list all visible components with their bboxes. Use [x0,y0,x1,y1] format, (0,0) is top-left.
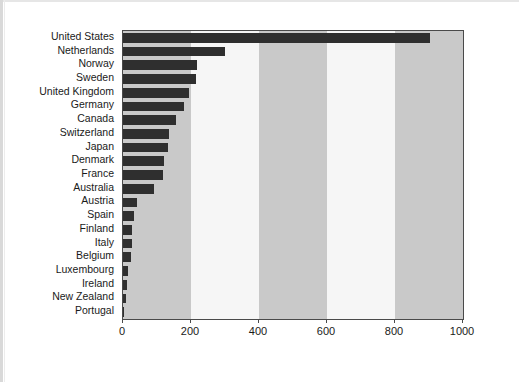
bar [123,280,127,290]
bar-row [123,266,463,276]
bar-row [123,239,463,249]
category-label: New Zealand [52,291,114,302]
x-tick-label: 400 [249,325,267,337]
category-label: Finland [80,223,114,234]
bar-row [123,129,463,139]
plot-area [122,30,464,320]
category-label: Italy [95,237,114,248]
category-label: Belgium [76,250,114,261]
x-tick-mark [462,319,463,323]
category-label: Canada [77,113,114,124]
bar-row [123,143,463,153]
bar [123,88,189,98]
category-label: Portugal [75,305,114,316]
category-label: Germany [71,99,114,110]
bar [123,294,126,304]
bar [123,143,168,153]
bar-row [123,156,463,166]
bar-row [123,60,463,70]
category-label: Japan [85,141,114,152]
bar [123,102,184,112]
category-label: France [81,168,114,179]
x-tick-mark [326,319,327,323]
category-label: Sweden [76,72,114,83]
category-label: Spain [87,209,114,220]
bar-row [123,184,463,194]
x-tick-mark [258,319,259,323]
bar [123,33,430,43]
bar [123,266,128,276]
category-label: Australia [73,182,114,193]
category-label: Netherlands [57,45,114,56]
bar-series [123,31,463,319]
bar [123,239,132,249]
bar-row [123,102,463,112]
x-tick-label: 1000 [450,325,474,337]
bar-row [123,280,463,290]
category-label: United States [51,31,114,42]
category-label: Denmark [71,154,114,165]
bar [123,47,225,57]
bar [123,74,196,84]
bar [123,170,163,180]
x-tick-mark [122,319,123,323]
bar-row [123,225,463,235]
x-tick-label: 200 [181,325,199,337]
bar-chart-figure: United StatesNetherlandsNorwaySwedenUnit… [0,0,519,382]
category-label: Switzerland [60,127,114,138]
bar-row [123,74,463,84]
category-label: United Kingdom [39,86,114,97]
bar-row [123,88,463,98]
bar-row [123,294,463,304]
screenshot-root: United StatesNetherlandsNorwaySwedenUnit… [0,0,519,382]
bar-row [123,198,463,208]
bar [123,307,124,317]
x-tick-label: 800 [385,325,403,337]
bar [123,156,164,166]
bar-row [123,115,463,125]
bar [123,198,137,208]
bar-row [123,33,463,43]
bar-row [123,211,463,221]
category-label: Austria [81,195,114,206]
bar-row [123,170,463,180]
bar [123,252,131,262]
value-axis: 02004006008001000 [122,319,463,349]
category-label: Luxembourg [56,264,114,275]
bar [123,225,132,235]
bar [123,60,197,70]
bar-row [123,307,463,317]
bar [123,129,169,139]
x-tick-mark [394,319,395,323]
x-tick-label: 600 [317,325,335,337]
x-tick-label: 0 [119,325,125,337]
bar-row [123,47,463,57]
category-label: Norway [78,58,114,69]
category-label: Ireland [82,278,114,289]
bar-row [123,252,463,262]
bar [123,184,154,194]
category-axis-labels: United StatesNetherlandsNorwaySwedenUnit… [0,30,118,318]
bar [123,115,176,125]
bar [123,211,134,221]
x-tick-mark [190,319,191,323]
